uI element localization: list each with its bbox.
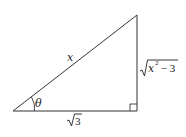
angle-label: θ — [35, 97, 42, 110]
right-triangle-diagram: θ x x 2 − 3 3 — [0, 0, 186, 137]
opposite-label: x 2 − 3 — [140, 59, 178, 76]
hypotenuse-side — [13, 15, 137, 111]
opposite-rest: − 3 — [158, 62, 176, 74]
adjacent-radicand: 3 — [75, 115, 81, 127]
opposite-var: x — [148, 62, 155, 75]
right-angle-marker — [130, 104, 137, 111]
adjacent-label: 3 — [67, 114, 82, 127]
hypotenuse-label: x — [67, 51, 74, 64]
